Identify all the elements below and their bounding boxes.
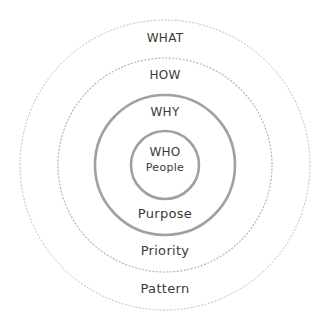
label-people: People — [0, 162, 330, 173]
label-what: WHAT — [0, 32, 330, 44]
label-purpose: Purpose — [0, 207, 330, 220]
label-how: HOW — [0, 69, 330, 81]
label-priority: Priority — [0, 244, 330, 257]
label-why: WHY — [0, 106, 330, 118]
golden-circle-diagram: WHAT HOW WHY WHO People Purpose Priority… — [0, 0, 330, 330]
label-who: WHO — [0, 146, 330, 158]
label-pattern: Pattern — [0, 282, 330, 295]
